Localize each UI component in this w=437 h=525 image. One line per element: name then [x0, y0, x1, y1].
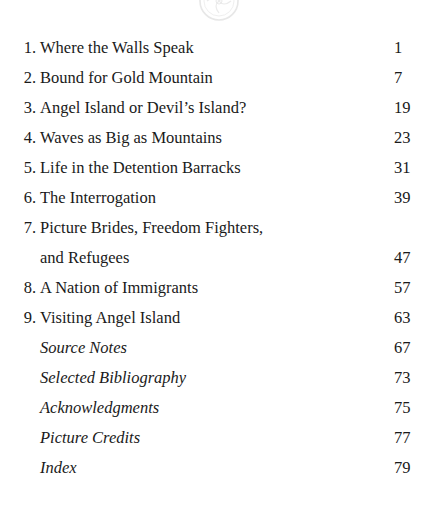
toc-entry-number: 1. [12, 33, 36, 63]
toc-entry-number: 7. [12, 213, 36, 243]
toc-entry-title-line: and Refugees [40, 243, 377, 273]
toc-entry-page-number: 19 [394, 93, 411, 123]
toc-entry[interactable]: 9.Visiting Angel Island63 [0, 303, 437, 333]
ornament-container [0, 0, 437, 22]
toc-entry-title-line: Visiting Angel Island [40, 303, 377, 333]
toc-entry-page-number: 57 [394, 273, 411, 303]
toc-entry-number: 2. [12, 63, 36, 93]
toc-entry-title[interactable]: Visiting Angel Island [40, 303, 377, 333]
toc-entry-number: 5. [12, 153, 36, 183]
toc-entry[interactable]: Index79 [0, 453, 437, 483]
toc-entry[interactable]: Acknowledgments75 [0, 393, 437, 423]
toc-entry-title-line: Source Notes [40, 333, 377, 363]
toc-entry-number: 3. [12, 93, 36, 123]
toc-entry[interactable]: 3.Angel Island or Devil’s Island?19 [0, 93, 437, 123]
toc-entry-title-line: The Interrogation [40, 183, 377, 213]
toc-entry-title[interactable]: Picture Credits [40, 423, 377, 453]
toc-entry-title[interactable]: The Interrogation [40, 183, 377, 213]
toc-entry-title-line: Picture Credits [40, 423, 377, 453]
toc-entry-title-line: Life in the Detention Barracks [40, 153, 377, 183]
circular-medallion-ornament [198, 0, 240, 22]
toc-entry-title-line: Bound for Gold Mountain [40, 63, 377, 93]
toc-entry-page-number: 67 [394, 333, 411, 363]
toc-entry-title[interactable]: Acknowledgments [40, 393, 377, 423]
toc-entry-title-line: Angel Island or Devil’s Island? [40, 93, 377, 123]
toc-entry-page-number: 39 [394, 183, 411, 213]
toc-entry-page-number: 73 [394, 363, 411, 393]
toc-entry-page-number: 63 [394, 303, 411, 333]
toc-entry[interactable]: 5.Life in the Detention Barracks31 [0, 153, 437, 183]
toc-entry-title-line: Picture Brides, Freedom Fighters, [40, 213, 377, 243]
toc-entry-title-line: A Nation of Immigrants [40, 273, 377, 303]
toc-entry-title[interactable]: Waves as Big as Mountains [40, 123, 377, 153]
toc-entry-page-number: 77 [394, 423, 411, 453]
toc-entry-title-line: Where the Walls Speak [40, 33, 377, 63]
toc-entry-number: 6. [12, 183, 36, 213]
toc-entry[interactable]: Selected Bibliography73 [0, 363, 437, 393]
toc-entry[interactable]: 8.A Nation of Immigrants57 [0, 273, 437, 303]
toc-entry-title[interactable]: Life in the Detention Barracks [40, 153, 377, 183]
toc-entry-number: 8. [12, 273, 36, 303]
toc-entry[interactable]: 7.Picture Brides, Freedom Fighters,and R… [0, 213, 437, 273]
toc-entry[interactable]: Picture Credits77 [0, 423, 437, 453]
toc-entry[interactable]: 4.Waves as Big as Mountains23 [0, 123, 437, 153]
toc-entry-number: 9. [12, 303, 36, 333]
toc-entry-title-line: Index [40, 453, 377, 483]
toc-entry-page-number: 79 [394, 453, 411, 483]
toc-entry[interactable]: 6.The Interrogation39 [0, 183, 437, 213]
toc-entry-title[interactable]: Picture Brides, Freedom Fighters,and Ref… [40, 213, 377, 273]
toc-entry-title[interactable]: A Nation of Immigrants [40, 273, 377, 303]
toc-entry-title[interactable]: Selected Bibliography [40, 363, 377, 393]
toc-entry-title-line: Waves as Big as Mountains [40, 123, 377, 153]
toc-entry[interactable]: 2.Bound for Gold Mountain7 [0, 63, 437, 93]
toc-entry[interactable]: 1.Where the Walls Speak1 [0, 33, 437, 63]
toc-entry-page-number: 7 [394, 63, 402, 93]
toc-entry-title[interactable]: Bound for Gold Mountain [40, 63, 377, 93]
toc-entry-title-line: Acknowledgments [40, 393, 377, 423]
toc-entry-title[interactable]: Where the Walls Speak [40, 33, 377, 63]
toc-entry-page-number: 75 [394, 393, 411, 423]
toc-entry-page-number: 1 [394, 33, 402, 63]
toc-entry-title[interactable]: Source Notes [40, 333, 377, 363]
table-of-contents-list: 1.Where the Walls Speak12.Bound for Gold… [0, 33, 437, 483]
toc-entry-page-number: 31 [394, 153, 411, 183]
toc-entry-title[interactable]: Angel Island or Devil’s Island? [40, 93, 377, 123]
toc-entry-title[interactable]: Index [40, 453, 377, 483]
toc-entry-number: 4. [12, 123, 36, 153]
toc-entry-page-number: 47 [394, 243, 411, 273]
toc-entry-title-line: Selected Bibliography [40, 363, 377, 393]
toc-entry-page-number: 23 [394, 123, 411, 153]
toc-entry[interactable]: Source Notes67 [0, 333, 437, 363]
